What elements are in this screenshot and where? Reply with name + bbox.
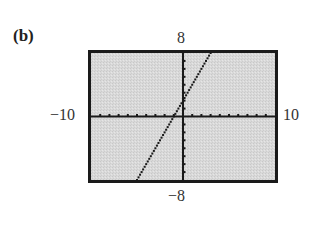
ymax-label: 8 [177,30,185,46]
figure-part-label: (b) [13,26,34,46]
xmin-label: −10 [50,107,75,123]
xmax-label: 10 [283,107,299,123]
graph-screen [88,50,278,183]
ymin-label: −8 [168,188,185,204]
